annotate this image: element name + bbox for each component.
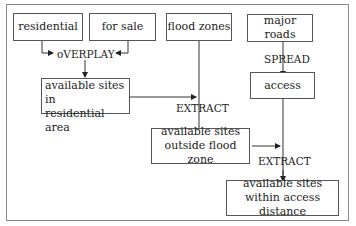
operation-extract-1: EXTRACT: [176, 102, 229, 114]
residential-sites-line2: residential area: [45, 107, 129, 135]
operation-spread: SPREAD: [264, 53, 310, 65]
output-line2: within access distance: [227, 191, 338, 219]
outside-flood-line1: available sites: [161, 125, 240, 139]
input-residential-label: residential: [18, 20, 78, 34]
access-label: access: [264, 79, 301, 93]
output-box: available sites within access distance: [226, 180, 339, 216]
outside-flood-box: available sites outside flood zone: [151, 128, 250, 164]
residential-sites-box: available sites in residential area: [41, 78, 130, 114]
operation-overlay: oVERPLAY: [57, 48, 115, 60]
input-flood-zones: flood zones: [166, 13, 232, 41]
outside-flood-line2: outside flood zone: [152, 139, 249, 167]
input-for-sale-label: for sale: [102, 20, 144, 34]
output-line1: available sites: [243, 177, 322, 191]
input-major-roads: major roads: [247, 14, 313, 42]
access-box: access: [250, 72, 315, 99]
input-residential: residential: [13, 13, 83, 41]
input-flood-zones-label: flood zones: [168, 20, 231, 34]
input-major-roads-label: major roads: [248, 14, 312, 42]
input-for-sale: for sale: [89, 13, 156, 41]
operation-extract-2: EXTRACT: [258, 155, 311, 167]
residential-sites-line1: available sites in: [45, 79, 129, 107]
